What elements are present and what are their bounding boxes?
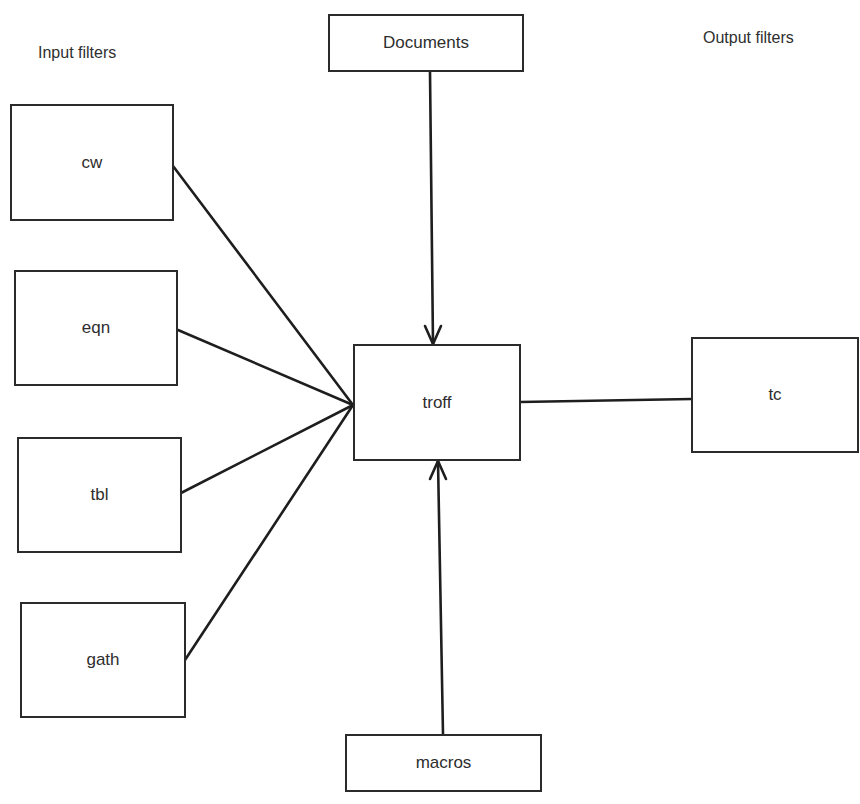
- edge-tbl-troff: [181, 405, 353, 493]
- node-troff-label: troff: [423, 393, 452, 413]
- node-documents: Documents: [328, 14, 524, 72]
- edge-documents-troff: [430, 72, 433, 344]
- node-tc-label: tc: [768, 385, 781, 405]
- node-gath-label: gath: [86, 650, 119, 670]
- node-documents-label: Documents: [383, 33, 469, 53]
- edge-cw-troff: [173, 166, 353, 405]
- node-gath: gath: [20, 602, 186, 718]
- node-macros-label: macros: [416, 753, 472, 773]
- node-eqn: eqn: [14, 270, 178, 386]
- edge-troff-tc: [520, 399, 692, 402]
- node-macros: macros: [345, 734, 542, 792]
- node-tbl-label: tbl: [91, 485, 109, 505]
- node-tc: tc: [691, 337, 859, 453]
- node-cw-label: cw: [82, 153, 103, 173]
- node-eqn-label: eqn: [82, 318, 110, 338]
- node-troff: troff: [353, 344, 521, 461]
- node-cw: cw: [10, 104, 174, 221]
- edge-gath-troff: [185, 405, 353, 660]
- output-filters-label: Output filters: [703, 29, 794, 47]
- edge-macros-troff: [438, 461, 443, 734]
- edge-eqn-troff: [178, 330, 353, 405]
- node-tbl: tbl: [17, 437, 182, 553]
- input-filters-label: Input filters: [38, 44, 116, 62]
